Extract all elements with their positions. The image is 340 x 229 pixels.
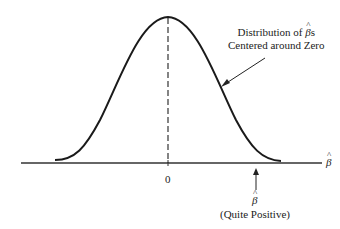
axis-label: β [326, 156, 331, 169]
beta-hat-symbol: β [305, 26, 310, 39]
zero-tick-label: 0 [165, 173, 171, 186]
estimate-beta-hat-symbol: β [252, 194, 257, 207]
annotation-suffix: s [311, 26, 315, 38]
annotation-arrow [225, 58, 265, 84]
estimate-symbol-label: β [252, 194, 257, 207]
annotation-line2: Centered around Zero [228, 39, 325, 52]
distribution-annotation: Distribution of βs Centered around Zero [228, 26, 325, 52]
estimate-caption: (Quite Positive) [220, 208, 290, 221]
annotation-line1: Distribution of [237, 26, 302, 38]
annotation-arrowhead [221, 79, 230, 87]
axis-beta-hat-symbol: β [326, 156, 331, 169]
estimate-arrowhead [253, 168, 259, 175]
